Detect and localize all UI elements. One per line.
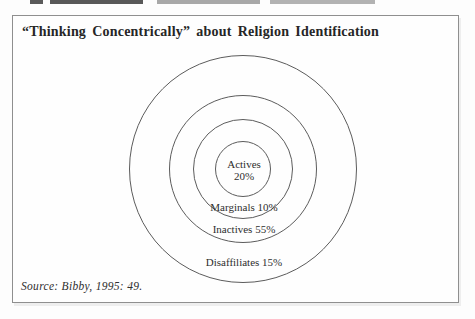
ring-label-disaffiliates-name: Disaffiliates bbox=[206, 256, 260, 268]
cropped-artifact-segment bbox=[30, 0, 43, 4]
ring-label-actives: Actives 20% bbox=[227, 158, 261, 182]
ring-label-marginals-name: Marginals bbox=[210, 201, 254, 213]
cropped-artifact-segment bbox=[50, 0, 143, 4]
cropped-artifact-segment bbox=[157, 0, 260, 4]
ring-label-inactives-name: Inactives bbox=[213, 223, 253, 235]
ring-label-marginals: Marginals 10% bbox=[210, 201, 277, 213]
cropped-artifact-segment bbox=[270, 0, 375, 4]
ring-label-disaffiliates-value: 15% bbox=[262, 256, 282, 268]
ring-label-inactives: Inactives 55% bbox=[213, 223, 276, 235]
figure-title: “Thinking Concentrically” about Religion… bbox=[22, 24, 442, 40]
figure-frame: “Thinking Concentrically” about Religion… bbox=[12, 15, 459, 303]
ring-label-actives-name: Actives bbox=[227, 158, 261, 170]
scanned-figure-page: “Thinking Concentrically” about Religion… bbox=[0, 0, 475, 319]
ring-label-disaffiliates: Disaffiliates 15% bbox=[206, 256, 282, 268]
ring-label-inactives-value: 55% bbox=[255, 223, 275, 235]
ring-label-actives-value: 20% bbox=[227, 170, 261, 182]
ring-label-marginals-value: 10% bbox=[257, 201, 277, 213]
source-citation: Source: Bibby, 1995: 49. bbox=[21, 280, 142, 292]
